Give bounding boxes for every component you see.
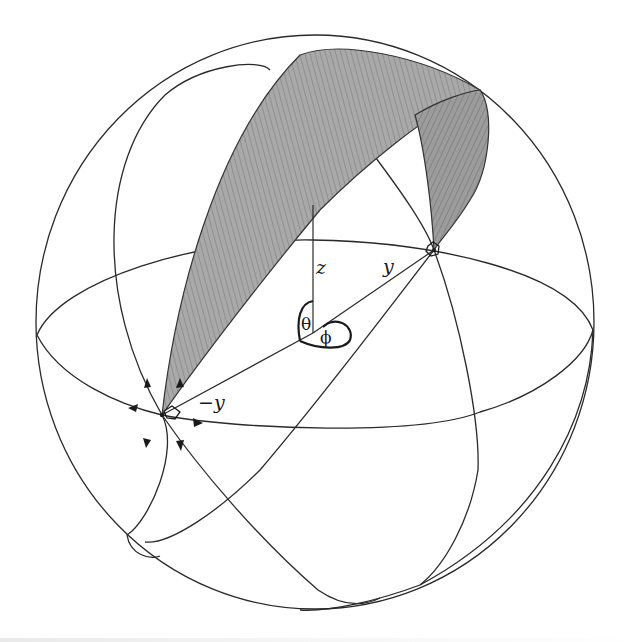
equator-front: [37, 330, 593, 428]
lower-ellipse: [300, 330, 593, 610]
z-label: z: [315, 256, 327, 278]
sphere-diagram: z y −y θ ϕ: [0, 0, 638, 642]
theta-label: θ: [301, 314, 311, 334]
meridian-lower-right: [162, 415, 380, 604]
arrow-icon: [143, 438, 151, 448]
meridian-left-back: [165, 64, 270, 95]
arrow-icon: [176, 440, 184, 451]
meridian-left: [114, 95, 168, 557]
meridian-right: [420, 250, 478, 585]
arrow-icon: [193, 418, 203, 427]
minus-y-label: −y: [198, 391, 225, 413]
equator-back: [37, 240, 593, 335]
y-axis: [313, 250, 434, 333]
y-label: y: [382, 255, 394, 277]
phi-label: ϕ: [320, 327, 332, 347]
meridian-upper-right: [370, 150, 434, 250]
clipped-caption: [0, 638, 638, 642]
shaded-surface-back: [415, 90, 489, 250]
